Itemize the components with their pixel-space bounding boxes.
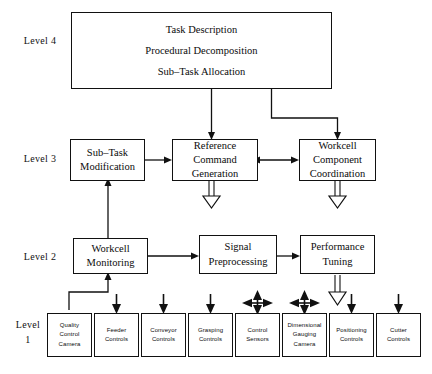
- node-label: Cutter Controls: [387, 326, 410, 345]
- node-label: Workcell Component Coordination: [310, 139, 365, 182]
- node-label: Dimensional Gauging Camera: [287, 321, 321, 349]
- node-quality-control-camera[interactable]: Quality Control Camera: [47, 313, 92, 357]
- node-performance-tuning[interactable]: Performance Tuning: [300, 235, 375, 274]
- node-grasping-controls[interactable]: Grasping Controls: [188, 313, 233, 357]
- node-label: Quality Control Camera: [59, 321, 81, 349]
- node-label: Signal Preprocessing: [209, 240, 268, 268]
- hollow-arrow-workcell-coordination-output: [329, 181, 346, 208]
- hollow-arrow-performance-tuning-output: [329, 275, 346, 305]
- stub-arrow-positioning-controls: [347, 294, 356, 314]
- node-task-description-block[interactable]: Task Description Procedural Decompositio…: [71, 12, 332, 89]
- node-label: Grasping Controls: [198, 326, 223, 345]
- wire-workcell-monitoring-to-subtask: [105, 178, 112, 238]
- node-label: Positioning Controls: [336, 326, 366, 345]
- node-dimensional-gauging-camera[interactable]: Dimensional Gauging Camera: [282, 313, 327, 357]
- level-label-2: Level 2: [12, 250, 68, 265]
- node-feeder-controls[interactable]: Feeder Controls: [94, 313, 139, 357]
- stub-arrow-grasping-controls: [206, 294, 215, 314]
- node-label: Task Description Procedural Decompositio…: [145, 19, 257, 82]
- node-label: Reference Command Generation: [192, 139, 239, 182]
- node-control-sensors[interactable]: Control Sensors: [235, 313, 280, 357]
- wire-signal-preprocessing-to-performance-tuning: [277, 253, 300, 260]
- node-conveyor-controls[interactable]: Conveyor Controls: [141, 313, 186, 357]
- level-label-4: Level 4: [12, 34, 68, 49]
- stub-arrow-cutter-controls: [394, 294, 403, 314]
- wire-level4-to-reference-command: [208, 89, 215, 140]
- node-label: Workcell Monitoring: [87, 242, 135, 270]
- hierarchical-control-diagram: Level 4 Level 3 Level 2 Level 1 Task Des…: [0, 0, 432, 374]
- wire-reference-command-bidirectional-coordination: [252, 157, 299, 164]
- stub-arrow-feeder-controls: [112, 294, 121, 314]
- node-signal-preprocessing[interactable]: Signal Preprocessing: [199, 235, 277, 274]
- node-workcell-component-coordination[interactable]: Workcell Component Coordination: [299, 139, 376, 181]
- cross-arrow-dimensional-gauging-camera: [289, 290, 320, 315]
- node-label: Control Sensors: [246, 326, 269, 345]
- wire-level4-to-workcell-coordination: [272, 89, 342, 140]
- node-reference-command-generation[interactable]: Reference Command Generation: [172, 139, 258, 181]
- node-cutter-controls[interactable]: Cutter Controls: [376, 313, 421, 357]
- hollow-arrow-reference-command-output: [203, 181, 220, 208]
- node-positioning-controls[interactable]: Positioning Controls: [329, 313, 374, 357]
- cross-arrow-control-sensors: [242, 290, 273, 315]
- level-label-1: Level 1: [6, 318, 50, 347]
- stub-arrow-conveyor-controls: [159, 294, 168, 314]
- wire-workcell-monitoring-to-signal-preprocessing: [148, 253, 199, 260]
- node-sub-task-modification[interactable]: Sub–Task Modification: [70, 139, 145, 181]
- wire-subtask-to-reference-command: [145, 157, 172, 164]
- node-label: Conveyor Controls: [150, 326, 176, 345]
- node-workcell-monitoring[interactable]: Workcell Monitoring: [73, 238, 148, 274]
- wire-quality-camera-to-workcell-monitoring: [69, 272, 112, 310]
- node-label: Performance Tuning: [311, 240, 365, 268]
- node-label: Sub–Task Modification: [80, 146, 135, 174]
- node-label: Feeder Controls: [105, 326, 128, 345]
- level-label-3: Level 3: [12, 152, 68, 167]
